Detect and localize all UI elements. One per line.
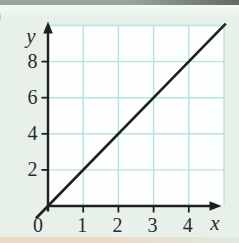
y-tick-label: 8 — [28, 50, 38, 72]
y-tick-label: 2 — [28, 158, 38, 180]
x-tick-label: 3 — [148, 214, 158, 236]
x-tick-label: 4 — [183, 214, 193, 236]
x-tick-label: 2 — [112, 214, 122, 236]
x-axis-label: x — [209, 211, 220, 235]
y-axis-label: y — [24, 24, 36, 48]
textbook-figure-panel: ) 123424680yx — [0, 0, 239, 243]
x-tick-label: 1 — [77, 214, 87, 236]
y-tick-label: 6 — [28, 86, 38, 108]
page-edge-bottom — [0, 237, 239, 243]
origin-label: 0 — [33, 214, 43, 236]
y-tick-label: 4 — [28, 122, 38, 144]
line-graph: 123424680yx — [0, 0, 239, 243]
